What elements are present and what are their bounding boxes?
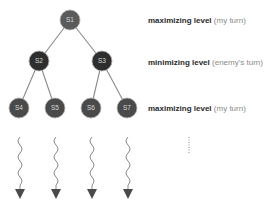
level-turn: (enemy's turn) [212,58,263,67]
arrowhead-icon [87,189,97,199]
svg-text:S1: S1 [66,16,74,23]
wavy-arrows [18,137,130,191]
svg-text:S4: S4 [15,104,23,111]
node-s2: S2 [29,51,49,71]
wavy-arrow-s7 [126,137,130,191]
arrowhead-icon [123,189,133,199]
node-s3: S3 [92,51,112,71]
svg-text:S2: S2 [35,57,43,64]
level-name: minimizing level [148,58,210,67]
tree-nodes: S1 S2 S3 S4 S5 S6 S7 [9,10,137,118]
level-turn: (my turn) [214,16,246,25]
level-label-max-1: maximizing level (my turn) [148,16,246,25]
level-turn: (my turn) [214,104,246,113]
wavy-arrow-s6 [90,137,94,191]
wavy-arrow-s4 [18,137,22,191]
node-s6: S6 [81,98,101,118]
svg-text:S7: S7 [123,104,131,111]
node-s7: S7 [117,98,137,118]
level-label-max-2: maximizing level (my turn) [148,104,246,113]
arrowheads [15,189,133,199]
svg-text:S5: S5 [51,104,59,111]
svg-text:S3: S3 [98,57,106,64]
node-s1: S1 [60,10,80,30]
svg-text:S6: S6 [87,104,95,111]
node-s4: S4 [9,98,29,118]
wavy-arrow-s5 [54,137,58,191]
node-s5: S5 [45,98,65,118]
level-name: maximizing level [148,104,212,113]
level-name: maximizing level [148,16,212,25]
arrowhead-icon [51,189,61,199]
level-label-min: minimizing level (enemy's turn) [148,58,263,67]
arrowhead-icon [15,189,25,199]
